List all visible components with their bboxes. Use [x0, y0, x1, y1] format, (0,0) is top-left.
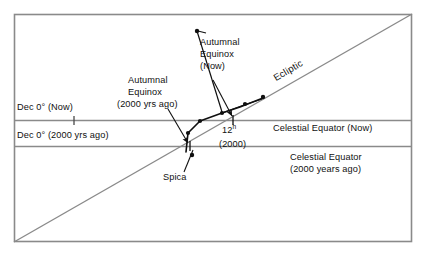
label-celestial-equator-2000-line1: Celestial Equator: [290, 152, 362, 163]
label-12h-superscript: h: [232, 123, 236, 130]
label-12h-year: (2000): [219, 139, 246, 150]
point-autumnal-now: [261, 95, 265, 99]
label-autumnal-2000-line3: (2000 yrs ago): [117, 99, 178, 110]
label-celestial-equator-now: Celestial Equator (Now): [273, 123, 372, 134]
label-dec-zero-2000: Dec 0° (2000 yrs ago): [17, 130, 109, 141]
label-celestial-equator-2000-line2: (2000 years ago): [290, 164, 361, 175]
arrow-autumnal-2000: [168, 109, 188, 143]
label-autumnal-now-line2: Equinox: [200, 49, 234, 60]
label-autumnal-now-line3: (Now): [200, 61, 225, 72]
label-12h-value: 12: [222, 125, 232, 135]
label-autumnal-2000-line1: Autumnal: [128, 75, 168, 86]
label-dec-zero-now: Dec 0° (Now): [17, 102, 73, 113]
leader-spica: [184, 150, 193, 172]
point-track-2: [198, 119, 202, 123]
diagram-canvas: Dec 0° (Now) Dec 0° (2000 yrs ago) Celes…: [0, 0, 430, 258]
point-track-4: [243, 102, 247, 106]
label-12h: 12h: [222, 125, 236, 136]
arrow-autumnal-now: [213, 80, 232, 116]
label-autumnal-2000-line2: Equinox: [128, 87, 162, 98]
point-track-1: [186, 131, 190, 135]
leader-autumnal-now-upper: [198, 31, 206, 33]
label-autumnal-now-line1: Autumnal: [200, 37, 240, 48]
label-spica: Spica: [163, 172, 186, 183]
